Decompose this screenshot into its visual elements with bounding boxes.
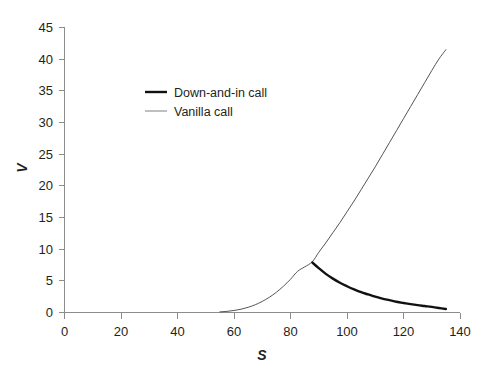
y-tick-label: 10 [39,242,53,257]
x-tick-label: 100 [336,324,358,339]
chart-container: 0 5 10 15 20 25 30 35 40 45 0 20 40 [0,0,493,373]
legend-label-vanilla-call: Vanilla call [174,105,233,119]
x-axis-title: S [257,347,267,363]
chart-svg: 0 5 10 15 20 25 30 35 40 45 0 20 40 [0,0,493,373]
x-tick-label: 20 [114,324,128,339]
y-tick-label: 25 [39,147,53,162]
x-tick-label: 140 [449,324,471,339]
x-tick-label: 40 [170,324,184,339]
y-tick-label: 45 [39,20,53,35]
x-tick-label: 80 [283,324,297,339]
x-tick-label: 0 [61,324,68,339]
y-tick-label: 0 [46,305,53,320]
y-tick-label: 15 [39,210,53,225]
y-tick-label: 30 [39,115,53,130]
chart-background [0,0,493,373]
y-tick-label: 35 [39,83,53,98]
y-tick-label: 40 [39,52,53,67]
y-tick-label: 5 [46,273,53,288]
y-tick-label: 20 [39,178,53,193]
legend-label-down-and-in-call: Down-and-in call [174,86,267,100]
x-tick-label: 120 [393,324,415,339]
x-tick-label: 60 [227,324,241,339]
